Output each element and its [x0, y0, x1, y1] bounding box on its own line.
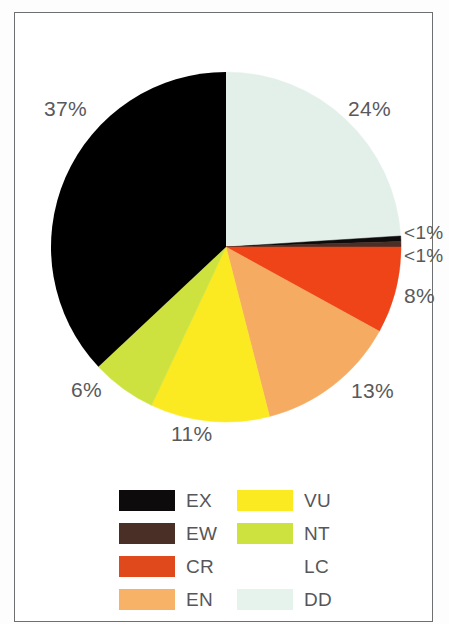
pie-label-ex: <1%: [404, 222, 443, 244]
pie-label-lc: 37%: [44, 97, 87, 121]
pie-label-cr: 8%: [404, 284, 435, 308]
chart-legend: EXVUEWNTCRLCENDD: [119, 484, 349, 616]
legend-item-cr: CR: [119, 550, 237, 583]
legend-label-ew: EW: [186, 524, 217, 543]
legend-item-dd: DD: [237, 583, 349, 616]
pie-label-vu: 11%: [171, 422, 212, 446]
pie-label-ew: <1%: [404, 245, 443, 267]
legend-swatch-ew: [119, 523, 175, 544]
legend-item-vu: VU: [237, 484, 349, 517]
pie-label-dd: 24%: [348, 97, 391, 121]
legend-label-en: EN: [186, 590, 213, 609]
legend-label-dd: DD: [304, 590, 332, 609]
legend-item-en: EN: [119, 583, 237, 616]
legend-label-vu: VU: [304, 491, 331, 510]
legend-label-cr: CR: [186, 557, 214, 576]
legend-swatch-cr: [119, 556, 175, 577]
legend-item-ew: EW: [119, 517, 237, 550]
legend-swatch-ex: [119, 490, 175, 511]
legend-swatch-vu: [237, 490, 293, 511]
pie-label-en: 13%: [351, 379, 394, 403]
legend-label-lc: LC: [304, 557, 329, 576]
legend-item-lc: LC: [237, 550, 349, 583]
legend-swatch-nt: [237, 523, 293, 544]
legend-swatch-en: [119, 589, 175, 610]
figure-frame: 37% 24% <1% <1% 8% 13% 11% 6% EXVUEWNTCR…: [14, 12, 433, 622]
figure-root: 37% 24% <1% <1% 8% 13% 11% 6% EXVUEWNTCR…: [0, 0, 449, 624]
legend-swatch-dd: [237, 589, 293, 610]
legend-item-nt: NT: [237, 517, 349, 550]
legend-swatch-lc: [237, 556, 293, 577]
legend-item-ex: EX: [119, 484, 237, 517]
legend-label-nt: NT: [304, 524, 330, 543]
pie-slice-group: [51, 72, 401, 422]
legend-label-ex: EX: [186, 491, 212, 510]
pie-label-nt: 6%: [71, 378, 102, 402]
